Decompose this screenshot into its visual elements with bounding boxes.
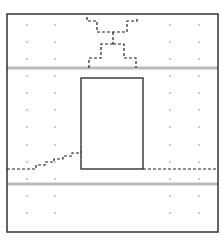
- grid-dot: [169, 161, 171, 163]
- grid-dot: [26, 161, 28, 163]
- grid-dot: [26, 92, 28, 94]
- grid-dot: [54, 24, 56, 26]
- grid-dot: [26, 75, 28, 77]
- grid-dot: [54, 109, 56, 111]
- dashed-path-top-lower-left: [89, 44, 113, 68]
- grid-dot: [169, 24, 171, 26]
- grid-dot: [198, 144, 200, 146]
- dashed-paths: [7, 17, 218, 169]
- gray-separator-lines: [7, 68, 218, 184]
- grid-dot: [54, 41, 56, 43]
- grid-dot: [26, 109, 28, 111]
- grid-dot: [198, 75, 200, 77]
- dashed-path-top-left-upper: [87, 17, 137, 32]
- grid-dot: [169, 92, 171, 94]
- grid-dot: [26, 126, 28, 128]
- grid-dot: [54, 161, 56, 163]
- grid-dot: [26, 212, 28, 214]
- grid-dot: [169, 144, 171, 146]
- grid-dot: [54, 75, 56, 77]
- grid-dot: [198, 24, 200, 26]
- grid-dot: [54, 58, 56, 60]
- grid-dot: [198, 41, 200, 43]
- grid-dot: [198, 92, 200, 94]
- grid-dot: [169, 109, 171, 111]
- grid-dot: [198, 178, 200, 180]
- grid-dot: [198, 195, 200, 197]
- grid-dot: [169, 126, 171, 128]
- grid-dot: [26, 144, 28, 146]
- grid-dot: [54, 195, 56, 197]
- grid-dot: [169, 212, 171, 214]
- diagram-canvas: [0, 0, 222, 244]
- grid-dot: [169, 58, 171, 60]
- outer-frame: [7, 14, 218, 232]
- dashed-path-bottom-left-staircase: [7, 152, 81, 169]
- grid-dot: [26, 41, 28, 43]
- grid-dot: [54, 178, 56, 180]
- grid-dot: [54, 212, 56, 214]
- grid-dot: [198, 126, 200, 128]
- grid-dot: [26, 195, 28, 197]
- grid-dot: [198, 161, 200, 163]
- grid-dot: [169, 41, 171, 43]
- grid-dot: [169, 195, 171, 197]
- grid-dot: [54, 144, 56, 146]
- grid-dot: [169, 178, 171, 180]
- grid-dot: [54, 126, 56, 128]
- grid-dot: [54, 92, 56, 94]
- grid-dot: [198, 58, 200, 60]
- grid-dot: [26, 178, 28, 180]
- center-rectangle: [81, 78, 143, 169]
- grid-dot: [198, 109, 200, 111]
- grid-dot: [26, 24, 28, 26]
- grid-dot: [26, 58, 28, 60]
- grid-dot: [169, 75, 171, 77]
- grid-dot: [198, 212, 200, 214]
- dashed-path-top-lower-right: [113, 44, 136, 68]
